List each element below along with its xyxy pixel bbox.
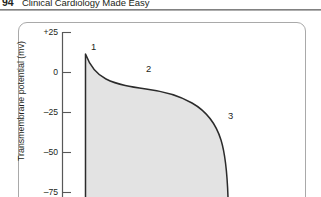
page-number: 94: [2, 0, 13, 8]
header-divider: [0, 9, 321, 11]
page-header: 94 Clinical Cardiology Made Easy: [0, 0, 321, 11]
figure-frame: [18, 22, 306, 197]
book-title: Clinical Cardiology Made Easy: [22, 0, 149, 9]
